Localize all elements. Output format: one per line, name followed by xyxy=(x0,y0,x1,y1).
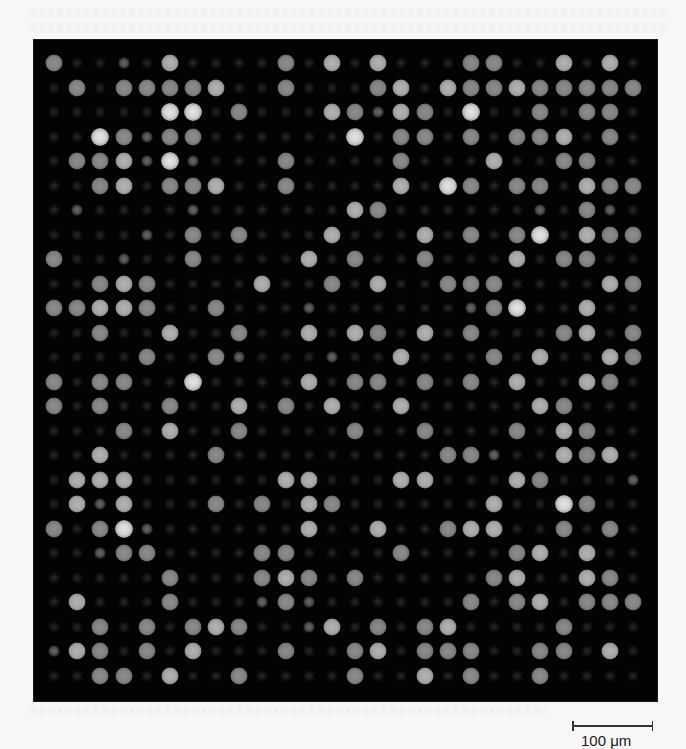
array-spot xyxy=(393,177,410,194)
array-spot xyxy=(509,373,526,390)
array-spot xyxy=(488,670,500,682)
array-spot xyxy=(94,572,106,584)
array-spot xyxy=(462,447,479,464)
array-spot xyxy=(581,278,593,290)
array-spot xyxy=(511,498,523,510)
array-spot xyxy=(323,275,340,292)
array-spot xyxy=(347,104,364,121)
array-spot xyxy=(92,324,109,341)
array-spot xyxy=(71,131,83,143)
array-spot xyxy=(555,79,572,96)
array-spot xyxy=(578,226,595,243)
array-spot xyxy=(300,496,317,513)
array-spot xyxy=(604,670,616,682)
array-spot xyxy=(465,621,477,633)
array-spot xyxy=(486,79,503,96)
array-spot xyxy=(187,351,199,363)
array-spot xyxy=(326,670,338,682)
array-spot xyxy=(604,204,616,216)
array-spot xyxy=(508,299,526,317)
array-spot xyxy=(627,376,639,388)
array-spot xyxy=(256,253,268,265)
array-spot xyxy=(627,400,639,412)
array-spot xyxy=(581,645,593,657)
array-spot xyxy=(210,523,222,535)
array-spot xyxy=(71,57,83,69)
array-spot xyxy=(71,547,83,559)
array-spot xyxy=(370,643,387,660)
array-spot xyxy=(164,351,176,363)
array-spot xyxy=(416,643,433,660)
array-spot xyxy=(578,594,595,611)
array-spot xyxy=(488,547,500,559)
array-spot xyxy=(442,106,454,118)
array-spot xyxy=(439,79,456,96)
array-spot xyxy=(625,324,642,341)
array-spot xyxy=(323,104,340,121)
array-spot xyxy=(254,275,271,292)
array-spot xyxy=(419,204,431,216)
array-spot xyxy=(256,106,268,118)
array-spot xyxy=(465,400,477,412)
array-spot xyxy=(161,324,178,341)
array-spot xyxy=(141,57,153,69)
array-spot xyxy=(442,572,454,584)
array-spot xyxy=(277,545,294,562)
array-spot xyxy=(442,131,454,143)
microarray-panel xyxy=(34,40,657,701)
array-spot xyxy=(509,226,526,243)
array-spot xyxy=(601,104,618,121)
array-spot xyxy=(370,324,387,341)
array-spot xyxy=(578,324,595,341)
array-spot xyxy=(210,474,222,486)
array-spot xyxy=(326,253,338,265)
array-spot xyxy=(277,471,294,488)
array-spot xyxy=(69,643,86,660)
array-spot xyxy=(462,667,479,684)
array-spot xyxy=(280,351,292,363)
array-spot xyxy=(256,155,268,167)
array-spot xyxy=(94,204,106,216)
array-spot xyxy=(395,449,407,461)
array-spot xyxy=(303,131,315,143)
array-spot xyxy=(208,349,225,366)
array-spot xyxy=(164,449,176,461)
array-spot xyxy=(92,520,109,537)
array-spot xyxy=(161,398,178,415)
array-spot xyxy=(71,523,83,535)
array-spot xyxy=(233,376,245,388)
array-spot xyxy=(256,425,268,437)
array-spot xyxy=(555,128,572,145)
array-spot xyxy=(578,251,595,268)
array-spot xyxy=(370,618,387,635)
array-spot xyxy=(349,351,361,363)
array-spot xyxy=(233,523,245,535)
array-spot xyxy=(604,474,616,486)
array-spot xyxy=(532,79,549,96)
array-spot xyxy=(48,106,60,118)
array-spot xyxy=(138,618,155,635)
array-spot xyxy=(71,180,83,192)
array-spot xyxy=(349,155,361,167)
array-spot xyxy=(511,449,523,461)
array-spot xyxy=(187,400,199,412)
array-spot xyxy=(303,82,315,94)
array-spot xyxy=(558,106,570,118)
array-spot xyxy=(393,398,410,415)
array-spot xyxy=(627,572,639,584)
array-spot xyxy=(118,327,130,339)
array-spot xyxy=(347,324,364,341)
array-spot xyxy=(233,278,245,290)
array-spot xyxy=(419,523,431,535)
array-spot xyxy=(161,128,178,145)
array-spot xyxy=(326,572,338,584)
array-spot xyxy=(233,57,245,69)
array-spot xyxy=(395,278,407,290)
array-spot xyxy=(604,400,616,412)
array-spot xyxy=(372,180,384,192)
array-spot xyxy=(71,106,83,118)
array-spot xyxy=(92,275,109,292)
array-spot xyxy=(118,351,130,363)
array-spot xyxy=(256,376,268,388)
array-spot xyxy=(161,79,178,96)
